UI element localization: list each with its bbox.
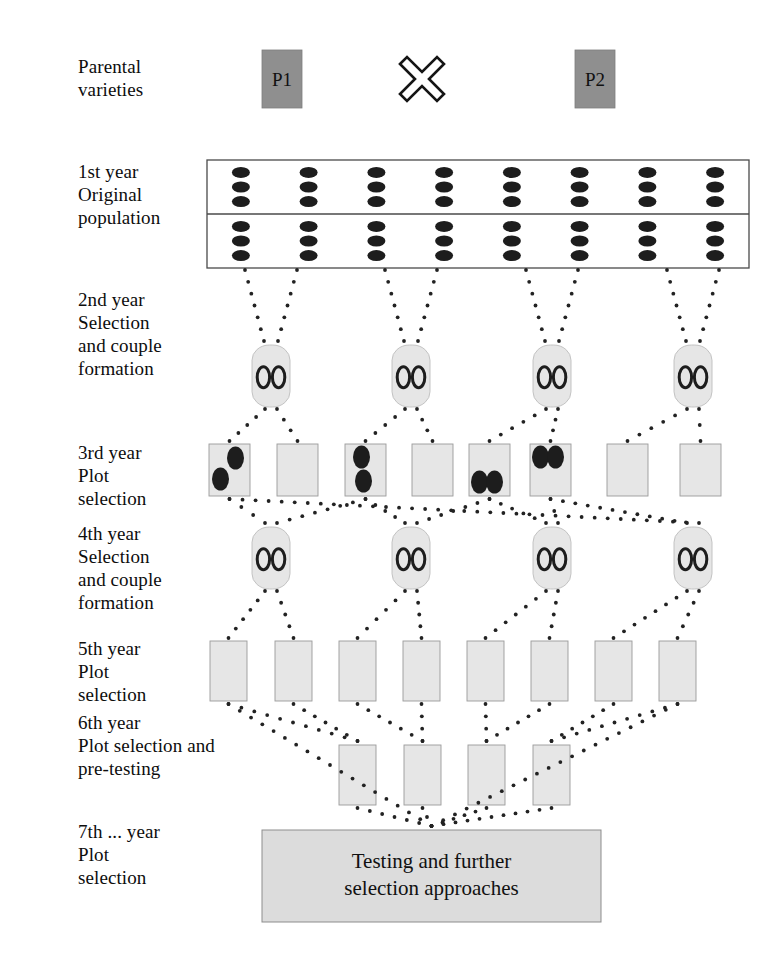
population-seed (638, 221, 656, 232)
connector-couple4-to-plot5-3a (612, 589, 689, 640)
couple-year2-0 (252, 345, 290, 407)
connector-couple4-to-plot5-1a (356, 589, 407, 640)
population-seed (638, 236, 656, 247)
population-seed (706, 221, 724, 232)
population-seed (706, 167, 724, 178)
stage-label-year4: 4th year Selection and couple formation (78, 522, 162, 614)
population-seed (503, 236, 521, 247)
connector-couple4-to-plot5-0b (275, 589, 295, 640)
connector-plot6-to-testing-3 (430, 806, 554, 828)
connector-couple2-to-plot3-1a (364, 407, 407, 443)
population-seed (435, 221, 453, 232)
plot-year6-3 (533, 745, 570, 805)
population-seed (232, 250, 250, 261)
population-seed (367, 182, 385, 193)
connector-couple2-to-plot3-0a (228, 407, 267, 443)
connector-couple4-to-plot5-3b (676, 589, 701, 640)
population-seed (300, 236, 318, 247)
population-seed (503, 182, 521, 193)
connector-plot3-to-couple4-0a (228, 497, 267, 525)
connector-plot3-to-couple4-1b (415, 497, 491, 525)
population-seed (638, 196, 656, 207)
connector-plot3-to-couple4-1a (364, 497, 407, 525)
plot-year3-1 (277, 444, 318, 496)
population-seed (638, 250, 656, 261)
population-seed (367, 250, 385, 261)
connector-plot3-to-couple4-3b (228, 497, 701, 525)
connector-plot5-to-plot6-5 (485, 702, 552, 743)
population-seed (367, 196, 385, 207)
stage-label-year2: 2nd year Selection and couple formation (78, 288, 162, 380)
connector-plot3-to-couple4-3a (549, 497, 689, 525)
testing-box-line-2: selection approaches (344, 876, 518, 900)
plot-year6-1 (404, 745, 441, 805)
plot-year3-7 (680, 444, 721, 496)
population-seed (435, 250, 453, 261)
breeding-scheme-diagram: P1P2Testing and furtherselection approac… (0, 0, 783, 970)
connector-pop-to-couple2-0b (276, 268, 299, 343)
plot-year5-0 (210, 641, 247, 701)
population-seed (503, 221, 521, 232)
testing-box-line-1: Testing and further (352, 849, 511, 873)
connector-couple4-to-plot5-2a (484, 589, 548, 640)
plot-seed (471, 471, 488, 494)
connector-plot5-outer-to-testing-0 (227, 702, 434, 828)
connector-plot3-to-couple4-2b (549, 497, 560, 525)
plot-year5-3 (403, 641, 440, 701)
connector-plot5-to-plot6-0 (227, 702, 360, 743)
population-seed (706, 196, 724, 207)
connector-plot5-to-plot6-7 (550, 702, 680, 743)
connector-couple4-to-plot5-0a (227, 589, 267, 640)
connector-couple2-to-plot3-0b (275, 407, 299, 443)
population-seed (300, 196, 318, 207)
connector-couple4-to-plot5-1b (415, 589, 423, 640)
plot-seed (353, 446, 370, 469)
population-seed (435, 167, 453, 178)
connector-pop-to-couple2-1b (416, 268, 439, 343)
population-seed (571, 221, 589, 232)
plot-year5-7 (659, 641, 696, 701)
plot-year5-6 (595, 641, 632, 701)
parent-label-p2: P2 (585, 69, 605, 90)
population-seed (706, 182, 724, 193)
couple-year2-2 (533, 345, 571, 407)
population-seed (503, 196, 521, 207)
connector-pop-to-couple2-2b (557, 268, 580, 343)
population-seed (232, 221, 250, 232)
population-seed (571, 182, 589, 193)
population-seed (503, 167, 521, 178)
population-seed (571, 236, 589, 247)
stage-label-year3: 3rd year Plot selection (78, 441, 146, 510)
population-seed (503, 250, 521, 261)
population-seed (571, 250, 589, 261)
population-seed (232, 196, 250, 207)
couple-year4-1 (392, 527, 430, 589)
population-seed (300, 167, 318, 178)
connector-pop-to-couple2-3a (665, 268, 688, 343)
plot-year5-4 (467, 641, 504, 701)
connector-couple2-to-plot3-3b (697, 407, 702, 443)
plot-seed (212, 468, 229, 491)
population-seed (435, 196, 453, 207)
couple-year2-1 (392, 345, 430, 407)
connector-couple4-to-plot5-2b (548, 589, 560, 640)
connector-couple2-to-plot3-2a (488, 407, 548, 443)
population-seed (367, 236, 385, 247)
couple-year4-2 (533, 527, 571, 589)
plot-seed (532, 446, 549, 469)
population-seed (571, 167, 589, 178)
connector-plot3-to-couple4-2a (488, 497, 548, 525)
population-seed (300, 250, 318, 261)
population-seed (435, 182, 453, 193)
connector-pop-to-couple2-2a (524, 268, 547, 343)
plot-year6-2 (468, 745, 505, 805)
plot-year6-0 (339, 745, 376, 805)
couple-year2-3 (674, 345, 712, 407)
connector-plot3-to-couple4-0b (275, 497, 367, 525)
connector-plot5-to-plot6-4 (484, 702, 489, 743)
population-seed (232, 167, 250, 178)
plot-seed (227, 447, 244, 470)
stage-label-year1: 1st year Original population (78, 160, 160, 229)
population-seed (300, 182, 318, 193)
connector-plot5-to-plot6-6 (550, 702, 616, 743)
